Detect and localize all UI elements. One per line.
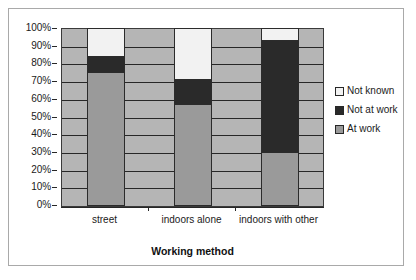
stacked-bar <box>174 29 212 206</box>
legend-item: Not known <box>335 86 405 96</box>
legend-swatch-icon <box>335 106 344 115</box>
y-axis-tick-label: 60% <box>31 94 51 104</box>
y-axis-tick-label: 40% <box>31 129 51 139</box>
y-axis: 0%10%20%30%40%50%60%70%80%90%100% <box>9 28 57 207</box>
x-axis-tick-mark <box>235 207 236 211</box>
bar-segment <box>261 152 299 206</box>
x-axis-title: Working method <box>61 245 324 257</box>
x-axis-line <box>61 207 324 208</box>
x-axis-category-label: indoors alone <box>148 214 235 226</box>
y-axis-tick-label: 0% <box>37 200 51 210</box>
legend-item-label: At work <box>347 124 380 134</box>
bar-group <box>261 29 299 206</box>
x-axis-category-label: street <box>61 214 148 226</box>
y-axis-tick-mark <box>52 187 57 188</box>
y-axis-tick-mark <box>52 63 57 64</box>
y-axis-tick-label: 90% <box>31 41 51 51</box>
bar-group <box>87 29 125 206</box>
y-axis-tick-label: 10% <box>31 182 51 192</box>
chart-legend: Not knownNot at workAt work <box>335 86 405 143</box>
y-axis-tick-mark <box>52 46 57 47</box>
y-axis-tick-mark <box>52 134 57 135</box>
y-axis-tick-label: 80% <box>31 58 51 68</box>
x-axis-tick-mark <box>148 207 149 211</box>
stacked-bar <box>261 29 299 206</box>
stacked-bar <box>87 29 125 206</box>
legend-item: At work <box>335 124 405 134</box>
bar-segment <box>261 28 299 41</box>
bar-segment <box>87 72 125 206</box>
y-axis-tick-mark <box>52 117 57 118</box>
y-axis-tick-mark <box>52 152 57 153</box>
y-axis-tick-mark <box>52 170 57 171</box>
y-axis-tick-label: 50% <box>31 112 51 122</box>
legend-item-label: Not at work <box>347 105 398 115</box>
bar-segment <box>87 56 125 73</box>
legend-item: Not at work <box>335 105 405 115</box>
y-axis-tick-mark <box>52 99 57 100</box>
y-axis-tick-mark <box>52 81 57 82</box>
legend-swatch-icon <box>335 125 344 134</box>
y-axis-tick-label: 70% <box>31 76 51 86</box>
y-axis-tick-label: 20% <box>31 165 51 175</box>
bar-segment <box>261 40 299 153</box>
bar-segment <box>174 28 212 80</box>
chart-container: 0%10%20%30%40%50%60%70%80%90%100% Workin… <box>8 8 404 266</box>
plot-area <box>61 28 324 207</box>
bar-segment <box>174 79 212 105</box>
x-axis-category-label: indoors with other <box>235 214 322 226</box>
y-axis-tick-label: 100% <box>26 23 51 33</box>
y-axis-tick-label: 30% <box>31 147 51 157</box>
bar-group <box>174 29 212 206</box>
bar-segment <box>174 104 212 206</box>
legend-item-label: Not known <box>347 86 394 96</box>
legend-swatch-icon <box>335 87 344 96</box>
y-axis-tick-mark <box>52 205 57 206</box>
y-axis-tick-mark <box>52 28 57 29</box>
bar-segment <box>87 28 125 57</box>
